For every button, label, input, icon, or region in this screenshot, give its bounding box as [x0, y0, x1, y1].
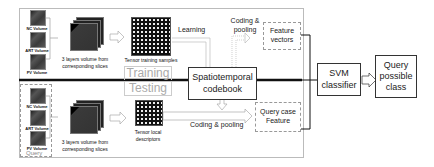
art-volume-query-image	[30, 110, 46, 126]
tensor-testing-cube	[135, 100, 163, 126]
coding-pooling-bottom-label: Coding & pooling	[190, 121, 243, 130]
pv-volume-image	[30, 54, 46, 70]
nc-volume-query-image	[30, 88, 46, 104]
learning-label: Learning	[178, 26, 205, 35]
query-feature-box: Query case Feature	[255, 102, 301, 132]
nc-volume-query-label: NC Volume	[18, 104, 56, 109]
volume-testing-label: 3 layers volume from corresponding slice…	[60, 139, 110, 152]
training-label: Training	[124, 66, 172, 80]
nc-volume-label: NC Volume	[18, 26, 56, 31]
codebook-box: Spatiotemporal codebook	[188, 67, 257, 100]
volume-stack-testing-layer	[70, 106, 98, 134]
output-class-box: Query possible class	[375, 55, 417, 98]
coding-pooling-top-label: Coding & pooling	[230, 17, 260, 35]
codebook-label: Spatiotemporal codebook	[189, 72, 256, 95]
output-label: Query possible class	[376, 60, 416, 94]
tensor-training-label: Tensor training samples	[120, 57, 182, 64]
art-volume-label: ART Volume	[18, 48, 56, 53]
query-group-label: Query	[26, 150, 42, 156]
volume-training-label: 3 layers volume from corresponding slice…	[60, 56, 110, 69]
tensor-testing-label: Tensor local descriptors	[130, 129, 166, 142]
nc-volume-image	[30, 10, 46, 26]
tensor-training-cube	[131, 17, 171, 56]
volume-stack-training-layer	[70, 23, 98, 51]
svm-classifier-box: SVM classifier	[317, 63, 361, 96]
feature-vectors-box: Feature vectors	[263, 22, 301, 50]
pv-volume-query-image	[30, 131, 46, 146]
testing-label: Testing	[124, 82, 172, 96]
art-volume-image	[30, 32, 46, 48]
svm-label: SVM classifier	[318, 68, 360, 91]
pv-volume-label: PV Volume	[18, 70, 56, 75]
